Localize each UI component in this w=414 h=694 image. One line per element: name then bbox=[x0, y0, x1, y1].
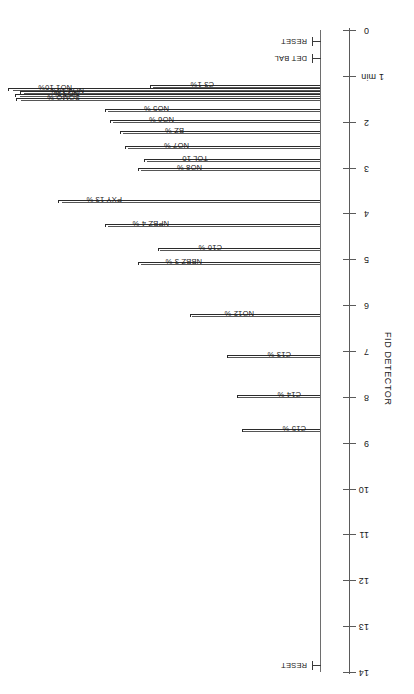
axis-tick-label: 1 min bbox=[361, 72, 384, 81]
peak-trace bbox=[190, 314, 320, 315]
axis-tick-label: 9 bbox=[364, 439, 369, 448]
peak-apex bbox=[105, 224, 106, 227]
peak-apex bbox=[227, 355, 228, 358]
peak-label: PXY 13 % bbox=[86, 195, 122, 203]
peak-label: C13 % bbox=[267, 350, 291, 358]
peak-label: C3 1% bbox=[190, 80, 214, 88]
peak-label: C15 % bbox=[282, 424, 306, 432]
axis-tick-label: 8 bbox=[364, 393, 369, 402]
peak-trace bbox=[110, 120, 320, 121]
peak-apex bbox=[125, 146, 126, 149]
peak-trace bbox=[144, 159, 320, 160]
peak-trace-foot bbox=[141, 170, 320, 171]
event-stem bbox=[312, 661, 313, 670]
axis-tick bbox=[343, 122, 356, 123]
peak-trace bbox=[158, 248, 320, 249]
peak-apex bbox=[138, 168, 139, 171]
peak-label: SOMO % bbox=[47, 93, 80, 101]
peak-label: NO6 % bbox=[149, 115, 174, 123]
peak-trace bbox=[120, 131, 320, 132]
peak-trace-foot bbox=[113, 122, 320, 123]
axis-tick-label: 4 bbox=[364, 209, 369, 218]
peak-apex bbox=[8, 88, 9, 91]
peak-label: NO8 % bbox=[177, 163, 202, 171]
event-mark bbox=[312, 665, 321, 666]
peak-apex bbox=[120, 131, 121, 134]
axis-tick bbox=[343, 351, 356, 352]
peak-trace-foot bbox=[192, 316, 320, 317]
axis-tick bbox=[343, 534, 356, 535]
peak-label: NO7 % bbox=[164, 141, 189, 149]
peak-apex bbox=[242, 429, 243, 432]
peak-trace bbox=[242, 429, 320, 430]
axis-tick bbox=[343, 168, 356, 169]
axis-tick-label: 10 bbox=[359, 485, 369, 494]
event-label: RESET bbox=[281, 37, 307, 45]
peak-label: C14 % bbox=[277, 390, 301, 398]
axis-tick bbox=[343, 397, 356, 398]
axis-tick bbox=[343, 672, 356, 673]
axis-tick-label: 11 bbox=[359, 530, 369, 539]
event-mark bbox=[312, 58, 321, 59]
axis-tick-label: 13 bbox=[359, 622, 369, 631]
peak-label: BZ % bbox=[165, 126, 184, 134]
axis-tick-label: 14 bbox=[359, 668, 369, 677]
peak-label: TOL 10 bbox=[182, 154, 208, 162]
peak-label: NBBZ 3 % bbox=[165, 257, 202, 265]
axis-tick-label: 12 bbox=[359, 576, 369, 585]
event-mark bbox=[312, 41, 321, 42]
peak-apex bbox=[237, 395, 238, 398]
peak-trace-foot bbox=[108, 111, 320, 112]
peak-apex bbox=[110, 120, 111, 123]
peak-apex bbox=[105, 109, 106, 112]
axis-tick-label: 7 bbox=[364, 347, 369, 356]
axis-tick bbox=[343, 626, 356, 627]
peak-trace bbox=[105, 109, 320, 110]
axis-tick bbox=[343, 305, 356, 306]
axis-tick bbox=[343, 76, 356, 77]
peak-trace-foot bbox=[123, 133, 320, 134]
peak-apex bbox=[16, 98, 17, 101]
peak-trace bbox=[138, 168, 320, 169]
peak-trace bbox=[150, 85, 320, 86]
event-label: DET BAL bbox=[274, 54, 307, 62]
peak-trace-foot bbox=[160, 250, 320, 251]
axis-tick-label: 0 bbox=[364, 26, 369, 35]
peak-trace-foot bbox=[128, 148, 320, 149]
peak-label: NO5 % bbox=[144, 104, 169, 112]
axis-tick bbox=[343, 443, 356, 444]
axis-tick-label: 2 bbox=[364, 118, 369, 127]
peak-label: NPBZ 4 % bbox=[132, 219, 169, 227]
peak-apex bbox=[15, 94, 16, 97]
axis-tick bbox=[343, 213, 356, 214]
event-label: RESET bbox=[281, 661, 307, 669]
peak-apex bbox=[190, 314, 191, 317]
event-stem bbox=[312, 54, 313, 63]
peak-label: C10 % bbox=[198, 243, 222, 251]
axis-tick bbox=[343, 489, 356, 490]
detector-caption: FID DETECTOR bbox=[383, 332, 392, 406]
chromatogram-chart: 01 min234567891011121314 FID DETECTOR C3… bbox=[0, 0, 414, 694]
axis-tick-label: 3 bbox=[364, 164, 369, 173]
peak-apex bbox=[58, 200, 59, 203]
peak-apex bbox=[138, 262, 139, 265]
peak-apex bbox=[144, 159, 145, 162]
axis-tick bbox=[343, 580, 356, 581]
axis-tick-label: 5 bbox=[364, 255, 369, 264]
event-stem bbox=[312, 37, 313, 46]
axis-tick-label: 6 bbox=[364, 301, 369, 310]
axis-tick bbox=[343, 259, 356, 260]
peak-trace bbox=[125, 146, 320, 147]
axis-tick bbox=[343, 30, 356, 31]
peak-label: NO12 % bbox=[224, 309, 254, 317]
peak-trace-foot bbox=[147, 161, 320, 162]
peak-apex bbox=[158, 248, 159, 251]
chromatogram-baseline bbox=[320, 30, 321, 672]
